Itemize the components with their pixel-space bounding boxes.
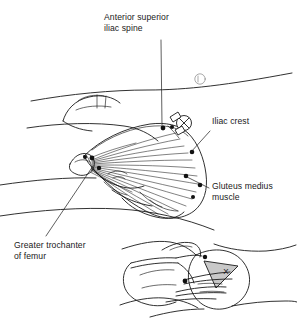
label-gluteus-medius-muscle: Gluteus medius muscle bbox=[212, 181, 273, 202]
label-iliac-crest: Iliac crest bbox=[212, 116, 249, 127]
anatomy-line-drawing: .ln { fill:none; stroke:#1a1a1a; stroke-… bbox=[0, 0, 297, 327]
faint-circle-mark-icon bbox=[195, 74, 205, 84]
gluteus-medius-fibers bbox=[86, 133, 198, 214]
anatomical-figure: .ln { fill:none; stroke:#1a1a1a; stroke-… bbox=[0, 0, 297, 327]
leader-lines bbox=[46, 40, 210, 236]
label-greater-trochanter-of-femur: Greater trochanter of femur bbox=[14, 240, 86, 261]
label-anterior-superior-iliac-spine: Anterior superior iliac spine bbox=[104, 12, 169, 33]
injection-x-mark: X bbox=[223, 267, 229, 276]
inset-hand-placement: X bbox=[120, 241, 297, 317]
